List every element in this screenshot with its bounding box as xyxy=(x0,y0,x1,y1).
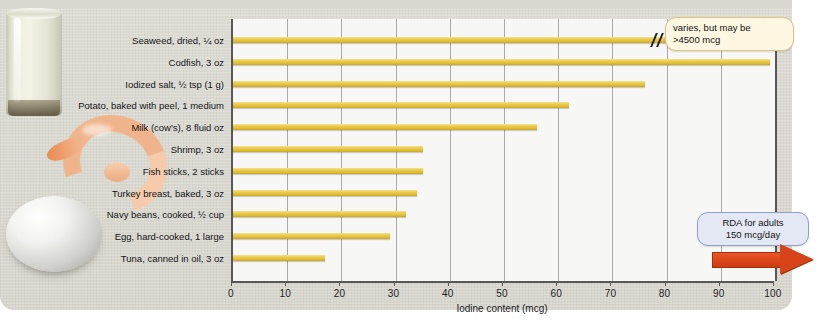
axis-break-mark xyxy=(650,33,666,47)
x-tick xyxy=(394,281,395,286)
x-tick xyxy=(719,281,720,286)
category-label: Egg, hard-cooked, 1 large xyxy=(0,231,224,242)
bar xyxy=(233,124,537,130)
category-label: Shrimp, 3 oz xyxy=(0,144,224,155)
x-tick xyxy=(231,281,232,286)
x-tick xyxy=(285,281,286,286)
rda-callout-line1: RDA for adults xyxy=(705,217,801,229)
x-tick xyxy=(502,281,503,286)
bar xyxy=(233,190,417,196)
category-label: Iodized salt, ½ tsp (1 g) xyxy=(0,78,224,89)
bar xyxy=(233,59,770,65)
rda-callout: RDA for adults 150 mcg/day xyxy=(697,212,809,246)
x-tick-label: 90 xyxy=(713,288,725,299)
category-label: Potato, baked with peel, 1 medium xyxy=(0,100,224,111)
category-label: Turkey breast, baked, 3 oz xyxy=(0,187,224,198)
x-tick-label: 80 xyxy=(659,288,671,299)
bar xyxy=(233,211,406,217)
bar xyxy=(233,81,645,87)
varies-callout-line2: >4500 mcg xyxy=(673,34,786,46)
glass-rim xyxy=(6,8,62,19)
category-label: Milk (cow's), 8 fluid oz xyxy=(0,122,224,133)
rda-callout-line2: 150 mcg/day xyxy=(705,229,801,241)
x-tick xyxy=(610,281,611,286)
bar xyxy=(233,168,423,174)
rda-arrow-head xyxy=(780,244,813,274)
category-label: Fish sticks, 2 sticks xyxy=(0,165,224,176)
bar xyxy=(233,102,569,108)
x-tick-label: 50 xyxy=(496,288,508,299)
varies-callout-line1: varies, but may be xyxy=(673,22,786,34)
varies-callout: varies, but may be >4500 mcg xyxy=(665,17,794,51)
card-top-edge xyxy=(0,0,792,8)
x-tick-label: 30 xyxy=(388,288,400,299)
x-tick xyxy=(773,281,774,286)
x-tick xyxy=(665,281,666,286)
figure-root: 0102030405060708090100 Iodine content (m… xyxy=(0,0,816,326)
bar xyxy=(233,255,325,261)
x-tick-label: 20 xyxy=(334,288,346,299)
category-label: Codfish, 3 oz xyxy=(0,56,224,67)
x-tick-label: 10 xyxy=(279,288,291,299)
category-label: Seaweed, dried, ¼ oz xyxy=(0,35,224,46)
category-label: Tuna, canned in oil, 3 oz xyxy=(0,253,224,264)
rda-arrow-shaft xyxy=(712,252,783,268)
x-tick-label: 0 xyxy=(228,288,234,299)
x-axis-title: Iodine content (mcg) xyxy=(231,303,773,314)
x-tick-label: 40 xyxy=(442,288,454,299)
rda-arrow-icon xyxy=(712,244,814,274)
x-tick-label: 70 xyxy=(605,288,617,299)
plot-area xyxy=(231,19,777,281)
x-tick xyxy=(339,281,340,286)
bar xyxy=(233,233,390,239)
bar xyxy=(233,146,423,152)
x-tick-label: 60 xyxy=(550,288,562,299)
x-tick-label: 100 xyxy=(764,288,781,299)
x-tick xyxy=(448,281,449,286)
category-label: Navy beans, cooked, ½ cup xyxy=(0,209,224,220)
x-tick xyxy=(556,281,557,286)
